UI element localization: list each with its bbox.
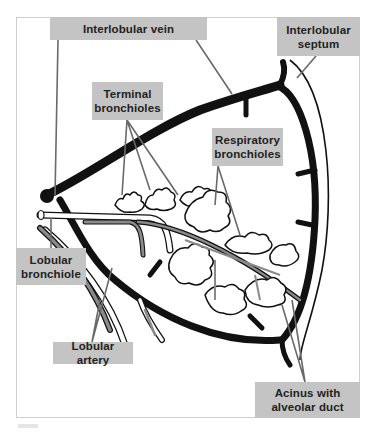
leader-lines <box>51 40 316 382</box>
label-text: alveolar duct <box>271 400 343 414</box>
label-text: bronchioles <box>214 147 280 161</box>
label-text: Respiratory <box>215 133 280 147</box>
label-text: Acinus with <box>275 386 341 400</box>
label-text: bronchioles <box>94 101 160 115</box>
lobule-illustration <box>0 0 375 433</box>
label-text: bronchiole <box>21 267 81 281</box>
label-interlobular-vein: Interlobular vein <box>50 17 207 40</box>
label-text: Terminal <box>104 87 152 101</box>
figure-caption-fragment <box>18 424 38 428</box>
label-text: Lobular <box>30 253 73 267</box>
label-terminal-bronchioles: Terminal bronchioles <box>92 82 163 120</box>
label-acinus: Acinus with alveolar duct <box>255 382 360 418</box>
label-respiratory-bronchioles: Respiratory bronchioles <box>212 128 283 166</box>
label-lobular-artery: Lobular artery <box>53 342 133 364</box>
label-text: septum <box>298 37 340 51</box>
label-interlobular-septum: Interlobular septum <box>277 17 360 56</box>
label-text: Interlobular <box>286 23 350 37</box>
label-text: Interlobular vein <box>83 22 174 36</box>
label-text: Lobular artery <box>57 339 129 367</box>
label-lobular-bronchiole: Lobular bronchiole <box>16 248 86 285</box>
